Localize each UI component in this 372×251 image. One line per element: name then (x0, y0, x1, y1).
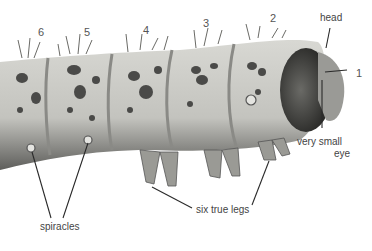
label-six-true-legs: six true legs (196, 204, 249, 216)
caterpillar-illustration (0, 0, 372, 251)
segment-number-2: 2 (270, 12, 276, 24)
label-head: head (320, 12, 342, 24)
head (280, 48, 344, 132)
segment-number-6: 6 (38, 26, 44, 38)
segment-number-1: 1 (356, 67, 362, 79)
label-spiracles: spiracles (40, 221, 79, 233)
caterpillar-figure: 6 5 4 3 2 1 head very small eye six true… (0, 0, 372, 251)
segment-number-5: 5 (84, 26, 90, 38)
segment-number-4: 4 (143, 24, 149, 36)
label-eye-line2: eye (334, 148, 350, 160)
label-eye-line1: very small (297, 136, 342, 148)
segment-number-3: 3 (203, 17, 209, 29)
